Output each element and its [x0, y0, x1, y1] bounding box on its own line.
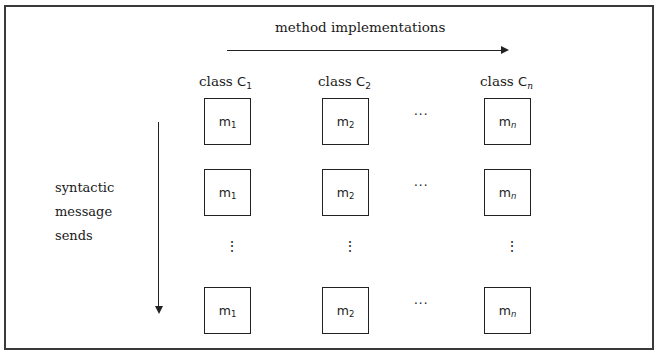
horizontal-ellipsis: ···: [414, 297, 428, 311]
column-label-class-c1: class C1: [199, 73, 252, 91]
column-label-class-c2: class C2: [318, 73, 371, 91]
vertical-ellipsis: ⋮: [225, 243, 231, 249]
horizontal-ellipsis: ···: [414, 108, 428, 122]
side-label-sends: sends: [55, 228, 93, 243]
method-implementations-title: method implementations: [275, 19, 446, 35]
vertical-ellipsis: ⋮: [505, 243, 511, 249]
horizontal-ellipsis: ···: [414, 179, 428, 193]
method-box: m2: [322, 169, 369, 216]
method-box: mn: [484, 169, 531, 216]
method-box: mn: [484, 287, 531, 334]
method-box: m2: [322, 98, 369, 145]
method-box: m1: [204, 169, 251, 216]
side-label-syntactic: syntactic: [55, 180, 114, 195]
method-box: m1: [204, 287, 251, 334]
method-box: m2: [322, 287, 369, 334]
horizontal-arrow-line: [227, 50, 503, 51]
side-label-message: message: [55, 204, 112, 219]
arrow-down-icon: [155, 306, 163, 314]
column-label-class-cn: class Cn: [480, 73, 533, 91]
method-box: mn: [484, 98, 531, 145]
vertical-ellipsis: ⋮: [343, 243, 349, 249]
method-box: m1: [204, 98, 251, 145]
vertical-arrow-line: [158, 122, 159, 308]
arrow-right-icon: [501, 46, 509, 54]
